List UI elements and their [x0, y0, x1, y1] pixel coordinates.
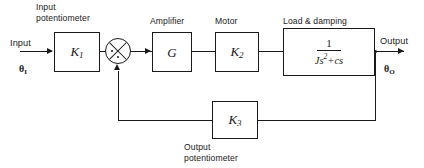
summing-sign-dot-left	[111, 50, 113, 52]
arrow-into-amplifier	[145, 48, 151, 54]
transfer-function: 1 Js2+cs	[315, 38, 343, 67]
arrow-into-summer	[114, 64, 120, 70]
wire-motor-to-load	[259, 51, 283, 52]
wire-feedback-down	[375, 51, 376, 121]
block-label-k3: K3	[228, 113, 241, 128]
block-label-k1: K1	[70, 45, 83, 60]
input-theta-subscript: I	[24, 68, 27, 76]
caption-load-damping: Load & damping	[283, 16, 347, 27]
wire-amplifier-to-motor	[192, 51, 215, 52]
block-input-potentiometer[interactable]: K1	[54, 32, 100, 72]
input-label: Input	[10, 38, 31, 48]
wire-feedback-to-k3	[257, 120, 376, 121]
input-symbol: θI	[19, 64, 27, 77]
summing-junction[interactable]	[105, 38, 131, 64]
block-label-g: G	[167, 46, 176, 59]
caption-output-potentiometer: Output potentiometer	[184, 142, 238, 163]
transfer-denominator: Js2+cs	[315, 51, 343, 67]
caption-motor: Motor	[215, 16, 237, 27]
wire-k3-to-summer	[118, 120, 213, 121]
block-amplifier[interactable]: G	[152, 32, 192, 72]
block-output-potentiometer[interactable]: K3	[212, 101, 258, 139]
output-label: Output	[380, 36, 408, 46]
block-label-k2: K2	[230, 45, 243, 60]
summing-sign-dot-bottom	[117, 56, 119, 58]
block-motor[interactable]: K2	[215, 32, 259, 72]
output-symbol: θO	[384, 64, 395, 77]
transfer-numerator: 1	[315, 38, 343, 50]
arrow-output	[398, 48, 404, 54]
arrow-input	[47, 48, 53, 54]
caption-amplifier: Amplifier	[150, 16, 184, 27]
wire-feedback-up	[118, 71, 119, 121]
caption-input-potentiometer: Input potentiometer	[36, 2, 90, 23]
block-load-damping[interactable]: 1 Js2+cs	[283, 28, 375, 76]
block-diagram: Input potentiometer Amplifier Motor Load…	[0, 0, 424, 168]
output-theta-subscript: O	[389, 68, 394, 76]
